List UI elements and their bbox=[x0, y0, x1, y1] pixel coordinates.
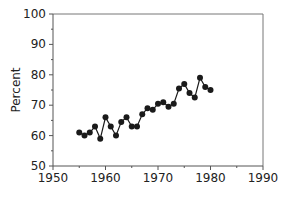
data-point bbox=[124, 114, 130, 120]
y-tick-label: 100 bbox=[23, 7, 46, 21]
data-point bbox=[171, 101, 177, 107]
y-axis-label: Percent bbox=[9, 67, 23, 112]
x-tick-label: 1960 bbox=[90, 171, 121, 185]
data-point bbox=[129, 123, 135, 129]
line-chart: 506070809010019501960197019801990Percent bbox=[0, 0, 288, 199]
y-tick-label: 80 bbox=[31, 68, 46, 82]
data-point bbox=[197, 75, 203, 81]
data-point bbox=[87, 130, 93, 136]
data-point bbox=[192, 95, 198, 101]
data-point bbox=[113, 133, 119, 139]
data-point bbox=[150, 107, 156, 113]
x-tick-label: 1950 bbox=[38, 171, 69, 185]
data-point bbox=[208, 87, 214, 93]
x-tick-label: 1990 bbox=[248, 171, 279, 185]
data-point bbox=[176, 85, 182, 91]
data-point bbox=[139, 111, 145, 117]
data-point bbox=[118, 119, 124, 125]
data-point bbox=[160, 99, 166, 105]
data-point bbox=[97, 136, 103, 142]
data-point bbox=[181, 81, 187, 87]
x-tick-label: 1970 bbox=[143, 171, 174, 185]
data-point bbox=[145, 105, 151, 111]
y-tick-label: 70 bbox=[31, 98, 46, 112]
data-point bbox=[103, 114, 109, 120]
y-tick-label: 90 bbox=[31, 37, 46, 51]
data-point bbox=[92, 123, 98, 129]
data-point bbox=[202, 84, 208, 90]
data-point bbox=[82, 133, 88, 139]
data-point bbox=[134, 123, 140, 129]
data-point bbox=[76, 130, 82, 136]
data-point bbox=[155, 101, 161, 107]
data-point bbox=[187, 90, 193, 96]
data-point bbox=[166, 104, 172, 110]
y-tick-label: 60 bbox=[31, 129, 46, 143]
data-point bbox=[108, 123, 114, 129]
x-tick-label: 1980 bbox=[195, 171, 226, 185]
